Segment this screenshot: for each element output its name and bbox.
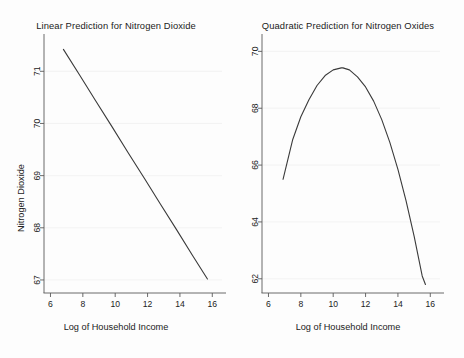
svg-text:64: 64 — [250, 217, 260, 227]
chart-panel-quadratic: Quadratic Prediction for Nitrogen Oxides… — [232, 0, 464, 358]
chart-panel-linear: Linear Prediction for Nitrogen Dioxide 6… — [0, 0, 232, 358]
svg-text:10: 10 — [328, 299, 338, 309]
svg-text:16: 16 — [426, 299, 436, 309]
svg-text:10: 10 — [110, 299, 120, 309]
svg-text:70: 70 — [250, 46, 260, 56]
x-axis-label-linear: Log of Household Income — [0, 322, 232, 332]
svg-text:8: 8 — [298, 299, 303, 309]
svg-text:71: 71 — [32, 66, 42, 76]
figure-canvas: Linear Prediction for Nitrogen Dioxide 6… — [0, 0, 464, 358]
y-axis-label-linear: Nitrogen Dioxide — [16, 164, 26, 232]
svg-text:70: 70 — [32, 118, 42, 128]
svg-text:68: 68 — [32, 223, 42, 233]
svg-text:12: 12 — [143, 299, 153, 309]
x-axis-label-quadratic: Log of Household Income — [232, 322, 464, 332]
quadratic-prediction-plot: 62646668706810121416 — [232, 0, 464, 358]
svg-text:6: 6 — [266, 299, 271, 309]
svg-text:16: 16 — [208, 299, 218, 309]
svg-text:68: 68 — [250, 103, 260, 113]
svg-text:6: 6 — [48, 299, 53, 309]
svg-text:12: 12 — [361, 299, 371, 309]
svg-text:62: 62 — [250, 274, 260, 284]
svg-text:8: 8 — [80, 299, 85, 309]
linear-prediction-plot: 67686970716810121416 — [0, 0, 232, 358]
svg-text:67: 67 — [32, 275, 42, 285]
svg-text:69: 69 — [32, 171, 42, 181]
svg-text:14: 14 — [175, 299, 185, 309]
svg-text:14: 14 — [393, 299, 403, 309]
svg-text:66: 66 — [250, 160, 260, 170]
